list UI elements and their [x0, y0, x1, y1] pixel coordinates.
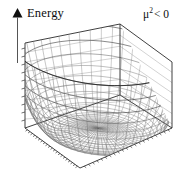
- mu-exponent: 2: [149, 6, 153, 15]
- plot-svg: [0, 0, 186, 180]
- figure-canvas: Energy μ2< 0: [0, 0, 186, 180]
- vertical-axis-ticks: [22, 48, 26, 121]
- mu-squared-annotation: μ2< 0: [143, 7, 169, 20]
- mu-relation: < 0: [154, 8, 169, 20]
- energy-axis-label: Energy: [27, 7, 64, 20]
- energy-axis-arrow: [13, 8, 23, 63]
